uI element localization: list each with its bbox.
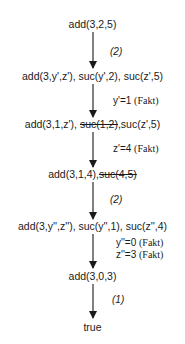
rule-label: (2) [110, 194, 122, 205]
binding-label: z''=3 [116, 249, 136, 260]
binding-label: z'=4 [113, 143, 131, 154]
node-add-suc-suc-1: add(3,y',z'), suc(y',2), suc(z',5) [0, 70, 185, 82]
edge-label-z4: z'=4 (Fakt) [113, 143, 159, 155]
edge-label-rule-1: (1) [112, 294, 124, 306]
fakt-label: (Fakt) [134, 143, 158, 154]
node-add-3-0-3: add(3,0,3) [0, 270, 185, 282]
struck-goal: suc(4,5) [99, 168, 137, 180]
node-text: true [83, 321, 101, 333]
node-text: add(3,y',z'), suc(y',2), suc(z',5) [22, 70, 163, 82]
node-text: add(3,1,4), [48, 168, 99, 180]
node-add-3-1-z: add(3,1,z'), suc(1,2),suc(z',5) [0, 118, 185, 130]
fakt-label: (Fakt) [139, 237, 163, 248]
rule-label: (2) [110, 46, 122, 57]
node-true: true [0, 321, 185, 333]
node-add-suc-suc-2: add(3,y'',z''), suc(y'',1), suc(z'',4) [0, 220, 185, 232]
rule-label: (1) [112, 294, 124, 305]
struck-goal: suc(1,2) [80, 118, 118, 130]
fakt-label: (Fakt) [139, 249, 163, 260]
node-text: add(3,y'',z''), suc(y'',1), suc(z'',4) [18, 220, 167, 232]
binding-label: y''=0 [116, 237, 136, 248]
node-text: add(3,1,z'), [25, 118, 80, 130]
node-text: ,suc(z',5) [118, 118, 160, 130]
node-text: add(3,2,5) [69, 18, 117, 30]
edge-label-y0: y''=0 (Fakt) [116, 237, 163, 249]
edge-label-z3: z''=3 (Fakt) [116, 249, 163, 261]
node-add-3-2-5: add(3,2,5) [0, 18, 185, 30]
binding-label: y'=1 [113, 95, 131, 106]
node-add-3-1-4: add(3,1,4),suc(4,5) [0, 168, 185, 180]
node-text: add(3,0,3) [69, 270, 117, 282]
edge-label-rule-2: (2) [110, 46, 122, 58]
fakt-label: (Fakt) [134, 95, 158, 106]
edge-label-y1: y'=1 (Fakt) [113, 95, 159, 107]
edge-label-rule-2b: (2) [110, 194, 122, 206]
